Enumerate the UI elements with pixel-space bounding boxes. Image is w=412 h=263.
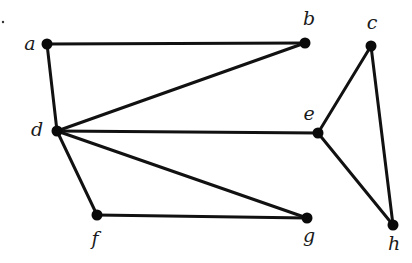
node-b xyxy=(300,38,311,49)
node-g xyxy=(302,213,313,224)
node-f xyxy=(92,210,103,221)
node-label-e: e xyxy=(303,102,314,124)
node-c xyxy=(366,41,377,52)
node-h xyxy=(388,220,399,231)
node-label-a: a xyxy=(24,32,35,54)
node-e xyxy=(313,128,324,139)
stray-dot-mark xyxy=(2,21,4,23)
node-a xyxy=(42,39,53,50)
node-label-b: b xyxy=(303,7,315,29)
edges-group xyxy=(47,43,393,225)
edge-d-g xyxy=(57,131,307,218)
edge-d-e xyxy=(57,131,318,133)
edge-a-b xyxy=(47,43,305,44)
graph-diagram: abcdefgh xyxy=(0,0,412,263)
node-d xyxy=(52,126,63,137)
edge-c-h xyxy=(371,46,393,225)
node-label-h: h xyxy=(388,232,400,254)
edge-a-d xyxy=(47,44,57,131)
node-label-d: d xyxy=(31,118,43,140)
edge-e-c xyxy=(318,46,371,133)
node-label-c: c xyxy=(367,11,378,33)
edge-e-h xyxy=(318,133,393,225)
node-label-f: f xyxy=(89,227,101,249)
edge-d-b xyxy=(57,43,305,131)
nodes-group xyxy=(42,38,399,231)
edge-f-g xyxy=(97,215,307,218)
node-label-g: g xyxy=(303,224,315,246)
